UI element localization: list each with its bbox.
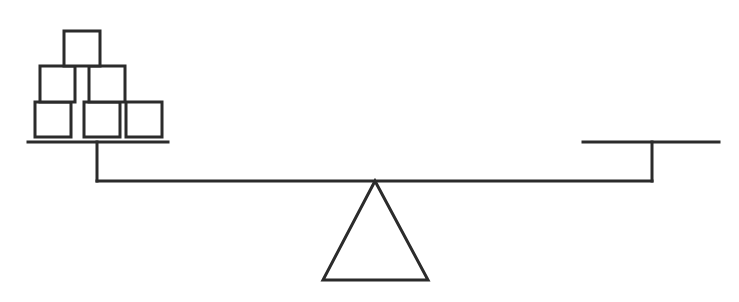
block-5 [89,66,125,102]
right-pan [583,142,719,181]
block-6 [64,31,100,66]
block-2 [84,102,120,137]
block-4 [40,66,75,102]
block-1 [35,102,71,137]
balance-scale-canvas [0,0,739,302]
block-3 [126,102,162,137]
fulcrum-triangle-shape [323,181,428,280]
left-pan-blocks [35,31,162,137]
fulcrum-triangle [323,181,428,280]
left-pan [28,142,168,181]
balance-scale-diagram [0,0,739,302]
